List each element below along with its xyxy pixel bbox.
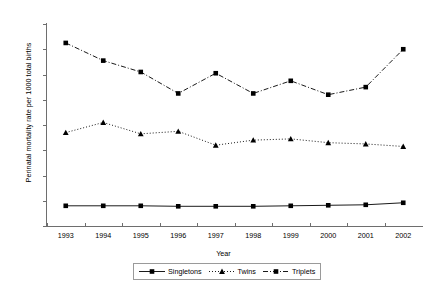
data-point-marker [176, 204, 181, 209]
data-point-marker [213, 142, 219, 147]
series-triplets [63, 41, 405, 97]
legend-swatch-icon [209, 267, 235, 276]
data-point-marker [288, 79, 293, 84]
legend-item-singletons[interactable]: Singletons [139, 267, 202, 276]
data-point-marker [213, 204, 218, 209]
data-point-marker [326, 203, 331, 208]
data-point-marker [176, 91, 181, 96]
series-plot-area [0, 0, 447, 288]
data-point-marker [274, 269, 279, 274]
data-point-marker [326, 92, 331, 97]
data-point-marker [251, 204, 256, 209]
data-point-marker [401, 200, 406, 205]
data-point-marker [175, 128, 181, 133]
data-point-marker [138, 131, 144, 136]
chart-figure: Perinatal mortality rate per 1000 total … [0, 0, 447, 288]
data-point-marker [63, 204, 68, 209]
data-point-marker [101, 58, 106, 63]
data-point-marker [363, 141, 369, 146]
series-line [66, 203, 404, 207]
legend-label: Singletons [168, 267, 202, 276]
data-point-marker [138, 204, 143, 209]
data-point-marker [101, 204, 106, 209]
data-point-marker [213, 71, 218, 76]
series-line [66, 43, 404, 95]
series-line [66, 122, 404, 146]
data-point-marker [401, 47, 406, 52]
legend-swatch-icon [263, 267, 289, 276]
data-point-marker [288, 204, 293, 209]
data-point-marker [251, 91, 256, 96]
data-point-marker [100, 120, 106, 125]
data-point-marker [150, 269, 155, 274]
legend-swatch-icon [139, 267, 165, 276]
data-point-marker [363, 85, 368, 90]
legend-item-triplets[interactable]: Triplets [263, 267, 315, 276]
legend-label: Triplets [292, 267, 315, 276]
legend-label: Twins [238, 267, 256, 276]
legend-item-twins[interactable]: Twins [209, 267, 256, 276]
series-twins [63, 120, 406, 149]
chart-legend: SingletonsTwinsTriplets [133, 263, 321, 280]
data-point-marker [63, 130, 69, 135]
series-singletons [63, 200, 405, 208]
data-point-marker [400, 144, 406, 149]
data-point-marker [63, 41, 68, 46]
data-point-marker [138, 70, 143, 75]
data-point-marker [363, 202, 368, 207]
